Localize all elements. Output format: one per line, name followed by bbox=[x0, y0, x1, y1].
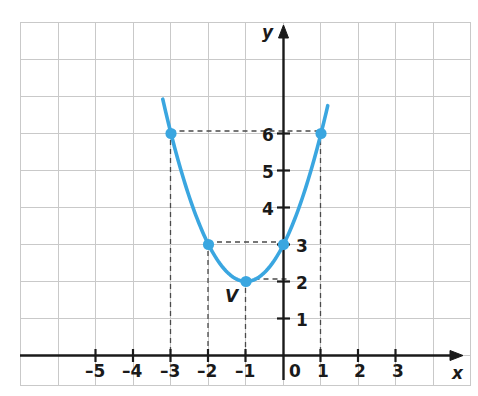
x-tick-label-0: 0 bbox=[289, 363, 301, 380]
x-tick-label--3: –3 bbox=[160, 363, 180, 380]
point-1-6[interactable] bbox=[315, 128, 326, 139]
coordinate-plane bbox=[0, 0, 478, 396]
y-tick-label-3: 3 bbox=[296, 238, 308, 255]
y-axis-label: y bbox=[262, 24, 273, 41]
axes bbox=[20, 25, 463, 380]
grid-lines bbox=[20, 22, 471, 386]
y-tick-label-2: 2 bbox=[296, 275, 308, 292]
x-tick-label--5: –5 bbox=[85, 363, 105, 380]
x-tick-label--4: –4 bbox=[122, 363, 142, 380]
x-tick-label-1: 1 bbox=[317, 363, 329, 380]
point--1-2-vertex[interactable] bbox=[240, 276, 251, 287]
y-tick-label-6: 6 bbox=[262, 127, 274, 144]
point--3-6[interactable] bbox=[165, 128, 176, 139]
y-tick-label-4: 4 bbox=[262, 201, 274, 218]
x-tick-label--1: –1 bbox=[235, 363, 255, 380]
point--2-3[interactable] bbox=[203, 239, 214, 250]
x-tick-label-2: 2 bbox=[354, 363, 366, 380]
y-tick-label-5: 5 bbox=[262, 164, 274, 181]
x-axis-arrow bbox=[450, 351, 463, 361]
x-tick-label-3: 3 bbox=[392, 363, 404, 380]
graph-figure: –5 –4 –3 –2 –1 0 1 2 3 1 2 3 4 5 6 y x V bbox=[0, 0, 478, 396]
x-tick-label--2: –2 bbox=[197, 363, 217, 380]
y-axis-arrow bbox=[279, 25, 289, 38]
x-axis-label: x bbox=[452, 365, 463, 382]
y-tick-label-1: 1 bbox=[296, 312, 308, 329]
vertex-label: V bbox=[225, 288, 238, 305]
point-0-3[interactable] bbox=[278, 239, 289, 250]
